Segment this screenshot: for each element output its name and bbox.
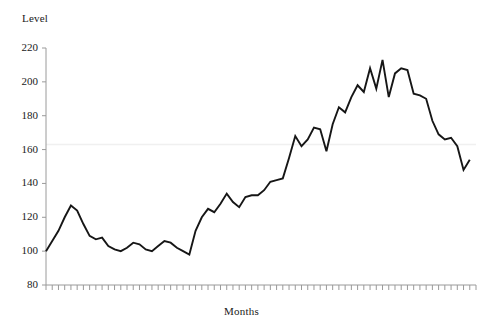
line-chart: Level Months 80100120140160180200220 <box>0 0 483 325</box>
plot-area <box>0 0 483 325</box>
y-axis <box>42 48 46 285</box>
x-axis <box>46 285 476 290</box>
data-series-level <box>46 60 470 255</box>
